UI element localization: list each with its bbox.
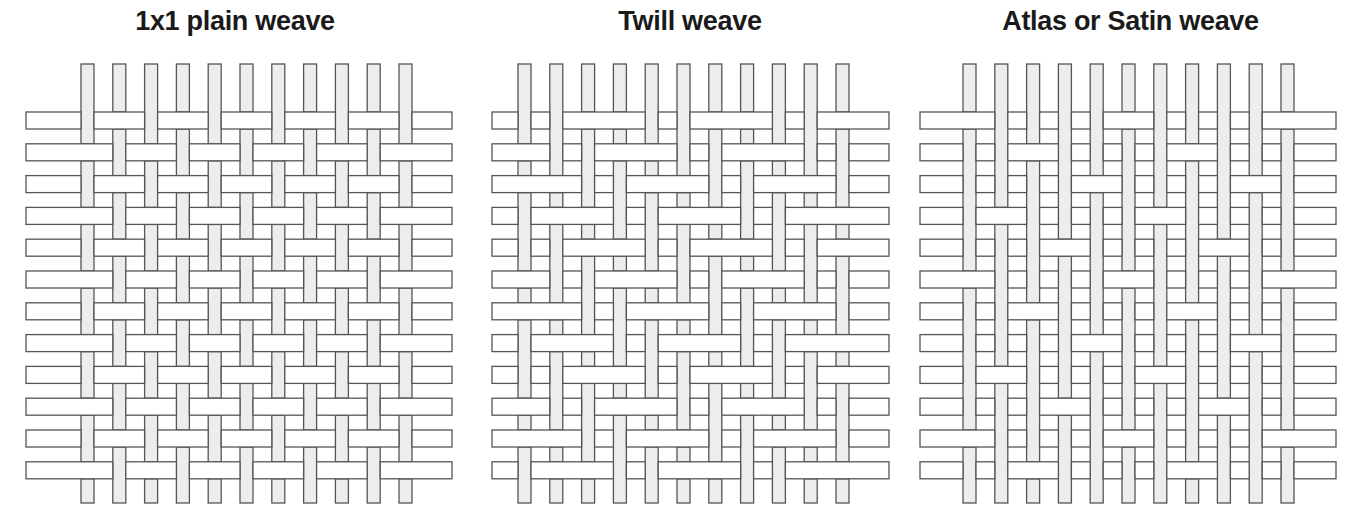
warp-segment <box>113 256 126 303</box>
weft-segment <box>1294 398 1336 415</box>
weft-segment <box>722 144 804 161</box>
weft-segment <box>976 335 995 352</box>
warp-segment <box>550 479 563 503</box>
warp-segment <box>709 352 722 367</box>
weft-segment <box>189 335 240 352</box>
weft-segment <box>595 430 614 447</box>
weft-segment <box>221 366 272 383</box>
twill-weave-svg <box>470 0 910 517</box>
weft-segment <box>785 207 889 224</box>
weft-segment <box>976 144 995 161</box>
weft-segment <box>920 398 963 415</box>
weft-segment <box>1103 112 1154 129</box>
weft-segment <box>1230 335 1281 352</box>
weft-segment <box>690 366 772 383</box>
weft-segment <box>1230 271 1249 288</box>
warp-segment <box>367 447 380 503</box>
weft-segment <box>626 176 708 193</box>
warp-segment <box>645 415 658 430</box>
warp-segment <box>550 64 563 176</box>
warp-segment <box>1058 64 1071 239</box>
warp-segment <box>176 383 189 430</box>
warp-segment <box>304 256 317 303</box>
warp-segment <box>399 415 412 462</box>
warp-segment <box>1090 352 1103 503</box>
weft-segment <box>492 430 582 447</box>
weft-segment <box>94 112 145 129</box>
weft-segment <box>1135 176 1154 193</box>
weft-segment <box>1167 144 1218 161</box>
warp-segment <box>335 161 348 208</box>
warp-segment <box>367 383 380 430</box>
weft-segment <box>26 271 113 288</box>
weft-segment <box>492 176 582 193</box>
weft-segment <box>785 335 889 352</box>
warp-segment <box>240 447 253 503</box>
weft-segment <box>492 398 550 415</box>
warp-segment <box>1154 64 1167 207</box>
weft-segment <box>26 207 113 224</box>
weft-segment <box>785 366 804 383</box>
weft-segment <box>492 207 518 224</box>
warp-segment <box>1186 161 1199 303</box>
warp-segment <box>709 256 722 334</box>
weft-segment <box>26 239 81 256</box>
warp-segment <box>176 256 189 303</box>
weft-segment <box>563 366 645 383</box>
weft-segment <box>1040 335 1059 352</box>
weft-segment <box>1294 462 1336 479</box>
warp-segment <box>176 129 189 176</box>
weft-segment <box>976 239 995 256</box>
weft-segment <box>1040 366 1059 383</box>
weft-segment <box>722 176 741 193</box>
warp-segment <box>582 479 595 503</box>
warp-segment <box>1122 129 1135 271</box>
weft-segment <box>626 303 708 320</box>
warp-segment <box>836 64 849 112</box>
weft-segment <box>1294 335 1336 352</box>
weft-segment <box>1167 239 1186 256</box>
warp-segment <box>176 64 189 112</box>
weft-segment <box>626 430 708 447</box>
weft-segment <box>1294 144 1336 161</box>
weft-segment <box>595 144 677 161</box>
warp-segment <box>518 64 531 144</box>
warp-segment <box>272 352 285 399</box>
warp-segment <box>677 224 690 302</box>
warp-segment <box>1217 256 1230 398</box>
weave-diagram-figure: 1x1 plain weave Twill weave Atlas or Sat… <box>0 0 1351 517</box>
warp-segment <box>582 352 595 367</box>
warp-segment <box>113 64 126 112</box>
warp-segment <box>613 64 626 112</box>
warp-segment <box>836 129 849 207</box>
weft-segment <box>658 112 677 129</box>
warp-segment <box>1058 256 1071 398</box>
weft-segment <box>1230 112 1249 129</box>
weft-segment <box>690 239 772 256</box>
warp-segment <box>645 288 658 303</box>
weft-segment <box>1040 207 1059 224</box>
weft-segment <box>253 398 304 415</box>
warp-segment <box>81 288 94 335</box>
warp-segment <box>518 320 531 398</box>
warp-segment <box>367 193 380 240</box>
weft-segment <box>976 462 995 479</box>
weft-segment <box>754 462 773 479</box>
warp-segment <box>176 447 189 503</box>
warp-segment <box>1154 224 1167 366</box>
warp-segment <box>81 415 94 462</box>
warp-segment <box>113 320 126 367</box>
weft-segment <box>920 271 995 288</box>
weft-segment <box>1135 398 1154 415</box>
warp-segment <box>836 479 849 503</box>
warp-segment <box>1281 129 1294 271</box>
weft-segment <box>1294 207 1336 224</box>
weft-segment <box>380 335 452 352</box>
warp-segment <box>208 224 221 271</box>
weft-segment <box>658 239 677 256</box>
warp-segment <box>613 161 626 239</box>
warp-segment <box>304 320 317 367</box>
weft-segment <box>595 303 614 320</box>
warp-segment <box>208 288 221 335</box>
warp-segment <box>367 320 380 367</box>
